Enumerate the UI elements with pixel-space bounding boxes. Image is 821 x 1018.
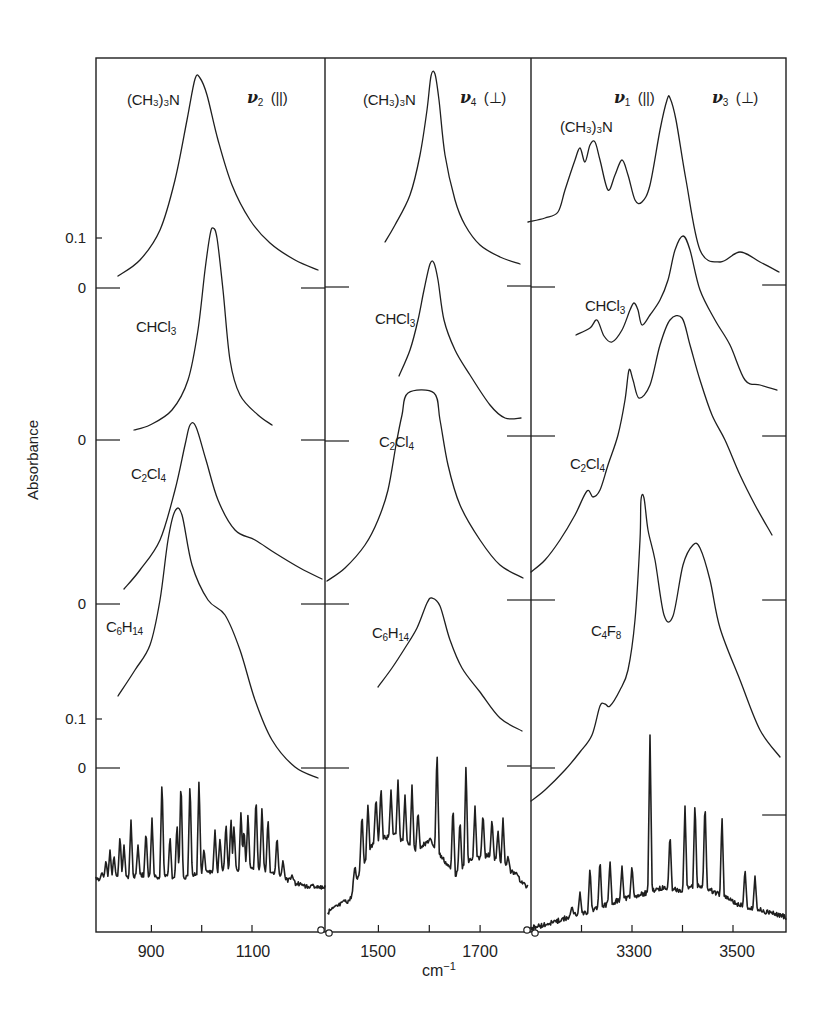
nu-symbol: ν — [712, 88, 723, 107]
x-tick-label: 1700 — [462, 943, 498, 961]
label-chcl3-p3: CHCl3 — [585, 297, 625, 316]
spectra-figure — [0, 0, 821, 1018]
y-tick-label: 0 — [46, 279, 86, 296]
y-tick-label: 0 — [46, 431, 86, 448]
x-tick-label: 1500 — [360, 943, 396, 961]
spectrum-c2cl4-nu4 — [327, 390, 523, 581]
x-axis-label: cm−1 — [422, 960, 456, 980]
formula: C — [372, 624, 383, 641]
y-tick-label: 0 — [46, 595, 86, 612]
y-axis-label: Absorbance — [24, 420, 41, 500]
mode-label-nu2: ν2 (||) — [247, 88, 287, 108]
x-axis-unit: cm — [422, 962, 443, 979]
mode-label-nu4: ν4 (⊥) — [460, 88, 506, 108]
spectrum-c2cl4-nu1_nu3 — [531, 316, 772, 572]
formula: Cl — [395, 433, 409, 450]
label-c2cl4-p1: C2Cl4 — [131, 465, 166, 484]
label-c2cl4-p2: C2Cl4 — [379, 433, 414, 452]
formula: H — [122, 618, 133, 635]
formula: C — [570, 455, 581, 472]
gas-phase-spectrum-nu4 — [328, 757, 528, 914]
label-c6h14-p1: C6H14 — [106, 618, 143, 637]
label-trimethylamine-p2: (CH₃)₃N — [363, 91, 416, 108]
formula: C — [131, 465, 142, 482]
polarization-parallel: (||) — [271, 89, 288, 106]
formula: H — [388, 624, 399, 641]
mode-subscript: 3 — [723, 97, 728, 108]
gas-phase-spectrum-nu2 — [96, 782, 325, 889]
formula-sub: 14 — [132, 626, 143, 637]
mode-label-nu3: ν3 (⊥) — [712, 88, 758, 108]
x-tick-label: 3300 — [616, 943, 652, 961]
y-tick-label: 0.1 — [46, 710, 86, 727]
x-tick-label: 1100 — [236, 943, 270, 961]
formula: CHCl — [585, 297, 620, 314]
formula-sub: 3 — [171, 326, 176, 337]
label-chcl3-p1: CHCl3 — [136, 318, 176, 337]
label-c2cl4-p3: C2Cl4 — [570, 455, 605, 474]
spectrum-c6h14-nu4 — [378, 598, 522, 731]
formula-sub: 4 — [408, 441, 413, 452]
nu-symbol: ν — [247, 88, 258, 107]
spectrum-c6h14-nu2 — [118, 508, 318, 778]
spectrum-curves — [96, 71, 786, 930]
label-c6h14-p2: C6H14 — [372, 624, 409, 643]
formula-sub: 4 — [599, 463, 604, 474]
label-trimethylamine-p1: (CH₃)₃N — [127, 91, 180, 108]
x-tick-label: 3500 — [719, 943, 755, 961]
polarization-perpendicular: (⊥) — [736, 89, 758, 106]
label-trimethylamine-p3: (CH₃)₃N — [560, 118, 613, 135]
mode-subscript: 2 — [258, 97, 263, 108]
formula-sub: 4 — [160, 473, 165, 484]
nu-symbol: ν — [460, 88, 471, 107]
formula: Cl — [586, 455, 600, 472]
nu-symbol: ν — [614, 88, 625, 107]
y-tick-label: 0 — [46, 759, 86, 776]
spectrum-chcl3-nu4 — [399, 261, 521, 419]
mode-subscript: 1 — [625, 97, 630, 108]
formula: Cl — [147, 465, 161, 482]
polarization-perpendicular: (⊥) — [484, 89, 506, 106]
formula-sub: 8 — [616, 630, 621, 641]
spectrum-c4f8-nu1_nu3 — [531, 494, 780, 801]
x-tick-label: 900 — [138, 943, 165, 961]
gas-phase-spectrum-nu1_nu3 — [531, 735, 786, 930]
y-tick-label: 0.1 — [46, 229, 86, 246]
mode-label-nu1: ν1 (||) — [614, 88, 654, 108]
formula: F — [607, 622, 616, 639]
formula-sub: 14 — [398, 632, 409, 643]
formula-sub: 3 — [620, 305, 625, 316]
formula: C — [591, 622, 602, 639]
formula: CHCl — [136, 318, 171, 335]
x-axis-unit-exponent: −1 — [443, 960, 456, 972]
formula: C — [379, 433, 390, 450]
spectrum-c2cl4-nu2 — [124, 423, 322, 589]
formula: CHCl — [375, 310, 410, 327]
label-chcl3-p2: CHCl3 — [375, 310, 415, 329]
polarization-parallel: (||) — [638, 89, 655, 106]
formula-sub: 3 — [410, 318, 415, 329]
formula: C — [106, 618, 117, 635]
mode-subscript: 4 — [471, 97, 476, 108]
label-c4f8-p3: C4F8 — [591, 622, 621, 641]
